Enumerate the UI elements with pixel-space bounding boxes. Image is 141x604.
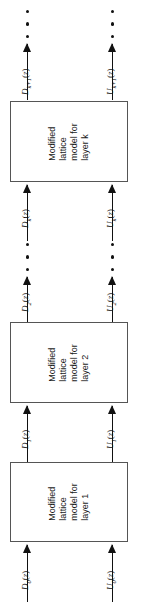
dot [111,268,114,271]
top-right-dots [111,10,115,38]
block-layer-k[interactable]: Modified lattice model for layer k [10,101,128,182]
block-layer-2[interactable]: Modified lattice model for layer 2 [10,322,128,403]
dot [26,243,29,246]
block-layer-k-label: Modified lattice model for layer k [47,123,91,161]
signal-label-d-1: D1(z) [20,430,32,449]
signal-label-u-k: Uk(z) [105,209,117,228]
signal-label-u-0: U0(z) [105,571,117,590]
mid-right-dots [111,243,115,271]
dot [26,35,29,38]
dot [111,22,114,25]
signal-label-u-k-plus-1: Uk+1(z) [105,68,117,95]
signal-label-d-2: D2(z) [20,293,32,312]
dot [111,243,114,246]
dot [26,22,29,25]
dot [111,35,114,38]
signal-label-d-k: Dk(z) [20,209,32,228]
signal-label-u-1: U1(z) [105,430,117,449]
dot [26,255,29,258]
dot [26,268,29,271]
block-layer-1[interactable]: Modified lattice model for layer 1 [10,462,128,542]
block-layer-2-label: Modified lattice model for layer 2 [47,344,91,382]
dot [111,10,114,13]
top-left-dots [26,10,30,38]
signal-label-u-2: U2(z) [105,293,117,312]
signal-label-d-0: D0(z) [20,571,32,590]
signal-label-d-k-plus-1: Dk+1(z) [20,68,32,95]
mid-left-dots [26,243,30,271]
block-layer-1-label: Modified lattice model for layer 1 [47,483,91,521]
dot [111,255,114,258]
diagram-canvas: Dk+1(z) Uk+1(z) Modified lattice model f… [0,0,141,604]
dot [26,10,29,13]
